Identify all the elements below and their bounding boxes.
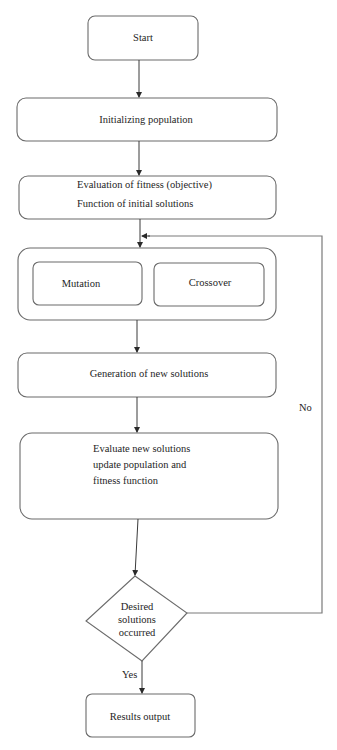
evaluate-fitness-label-1: Evaluation of fitness (objective) bbox=[77, 180, 212, 191]
results-label: Results output bbox=[110, 712, 170, 723]
start-label: Start bbox=[133, 33, 153, 44]
decision-label-2: solutions bbox=[118, 615, 156, 626]
yes-edge-label: Yes bbox=[122, 670, 137, 681]
generation-label: Generation of new solutions bbox=[90, 369, 209, 380]
mutation-label: Mutation bbox=[62, 279, 101, 290]
arrow-evaluate-to-decision bbox=[135, 519, 138, 575]
decision-label-1: Desired bbox=[121, 602, 154, 613]
evaluate-new-label-1: Evaluate new solutions bbox=[93, 444, 190, 455]
crossover-label: Crossover bbox=[189, 278, 232, 289]
evaluate-new-label-2: update population and bbox=[93, 460, 186, 471]
evaluate-fitness-label-2: Function of initial solutions bbox=[77, 199, 193, 210]
evaluate-new-label-3: fitness function bbox=[93, 476, 158, 487]
decision-label-3: occurred bbox=[119, 628, 156, 639]
no-edge-label: No bbox=[299, 403, 312, 414]
init-population-label: Initializing population bbox=[99, 115, 193, 126]
